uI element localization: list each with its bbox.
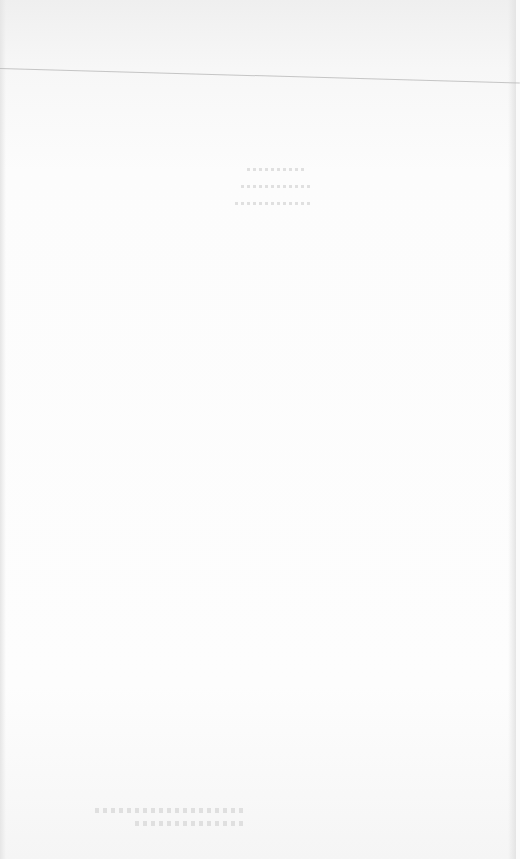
header-rule — [0, 68, 520, 84]
page-edge-shadow-right — [508, 0, 516, 859]
page-edge-shadow-left — [0, 0, 6, 859]
faded-illegible-text — [235, 168, 335, 219]
bleed-through-text — [95, 808, 245, 838]
